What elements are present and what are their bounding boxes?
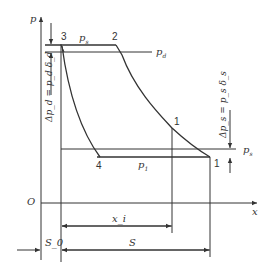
ps-right-label: ps [243,145,253,157]
point-3-label: 3 [61,32,67,42]
pd-label: pd [156,47,166,59]
delta-pd-label: Δp_d = p_d δ_d [45,52,54,122]
delta-ps-label: Δp_s = p_s δ_s [219,71,228,138]
ps-top-label: ps [79,33,89,45]
point-1i-label: 1 [174,117,180,127]
xi-label: x_i [112,214,126,224]
x-axis-label: x [252,207,258,217]
diagram-lines [0,0,272,277]
s-label: S [129,238,136,248]
pv-diagram: p x O 3 2 4 1 1 ps pd p1 ps Δp_d = p_d δ… [0,0,272,277]
p1-label: p1 [138,160,148,172]
point-2-label: 2 [112,32,118,42]
point-1-label: 1 [214,159,220,169]
p-axis-label: p [30,14,36,24]
s0-label: S_0 [45,238,63,248]
point-4-label: 4 [96,161,102,171]
origin-label: O [27,197,35,207]
